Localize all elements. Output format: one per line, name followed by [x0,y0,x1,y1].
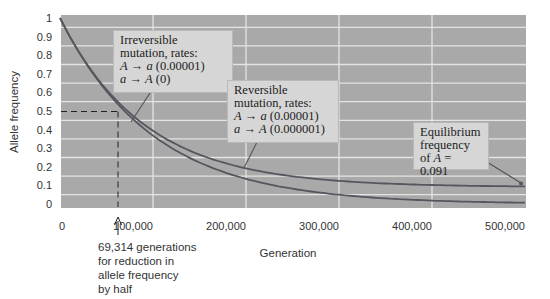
y-tick-label: 0.5 [37,105,52,117]
y-tick-label: 0.3 [37,142,52,154]
equilibrium-callout: Equilibrium frequency of A = 0.091 [413,122,489,170]
x-tick-label: 400,000 [392,220,432,232]
y-axis-ticks: 00.10.20.30.40.50.60.70.80.91 [37,12,52,210]
allele-A: A [259,122,267,136]
rate-value: (0.00001) [156,59,205,73]
y-tick-label: 0.7 [37,68,52,80]
half-life-note: 69,314 generations for reduction in alle… [98,240,196,296]
half-life-note-line2: for reduction in [98,254,196,268]
equilibrium-line3: of A = 0.091 [420,152,482,178]
rate-value: (0.000001) [270,122,325,136]
half-life-note-line1: 69,314 generations [98,240,196,254]
arrow-icon: → [243,122,256,136]
y-tick-label: 1 [46,12,52,24]
allele-A: A [234,109,242,123]
y-tick-label: 0.2 [37,161,52,173]
rate-value: (0) [156,72,171,86]
y-tick-label: 0.8 [37,49,52,61]
allele-a: a [234,122,240,136]
x-tick-label: 200,000 [206,220,246,232]
allele-a: a [120,72,126,86]
rate-value: (0.00001) [270,109,319,123]
y-tick-label: 0.4 [37,124,52,136]
x-tick-label: 0 [59,220,65,232]
allele-A: A [434,151,442,165]
irreversible-callout: Irreversible mutation, rates: A → a (0.0… [113,30,233,93]
x-axis-ticks: 0100,000200,000300,000400,000500,000 [59,220,525,232]
half-life-note-line3: allele frequency [98,268,196,282]
allele-a: a [260,109,266,123]
y-axis-label: Allele frequency [8,71,20,153]
half-life-note-line4: by half [98,282,196,296]
y-tick-label: 0 [46,198,52,210]
equilibrium-prefix: of [420,151,430,165]
x-axis-label: Generation [260,247,317,259]
y-tick-label: 0.6 [37,86,52,98]
irreversible-rate-backward: a → A (0) [120,73,226,86]
arrow-icon: → [129,72,142,86]
y-tick-label: 0.1 [37,179,52,191]
x-tick-label: 500,000 [485,220,525,232]
y-tick-label: 0.9 [37,31,52,43]
reversible-callout: Reversible mutation, rates: A → a (0.000… [227,80,339,143]
x-tick-label: 100,000 [113,220,153,232]
arrow-icon: → [131,59,144,73]
allele-a: a [146,59,152,73]
allele-A: A [120,59,128,73]
arrow-icon: → [245,109,258,123]
reversible-rate-backward: a → A (0.000001) [234,123,332,136]
x-tick-label: 300,000 [299,220,339,232]
allele-A: A [145,72,153,86]
equilibrium-point [519,182,523,186]
